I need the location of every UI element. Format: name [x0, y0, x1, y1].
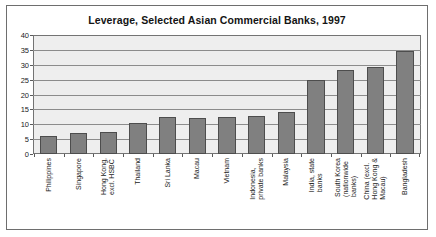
x-axis-tick-label: Singapore	[75, 158, 83, 190]
bar-slot	[64, 35, 94, 154]
bar-slot	[301, 35, 331, 154]
x-axis-label-slot: South Korea (nationwide banks)	[331, 158, 361, 224]
bar-slot	[93, 35, 123, 154]
bar	[40, 136, 57, 154]
x-axis-end-tickmark	[419, 154, 420, 157]
x-axis-label-slot: Indonesia, private banks	[242, 158, 272, 224]
y-axis-tick-label: 20	[21, 90, 29, 99]
x-axis-tick-label: Sri Lanka	[164, 158, 172, 188]
x-axis-label-slot: Thailand	[123, 158, 153, 224]
y-axis-tick-label: 0	[25, 150, 29, 159]
bar	[100, 132, 117, 154]
bar-slot	[361, 35, 391, 154]
bar-slot	[153, 35, 183, 154]
x-axis-tick-label: South Korea (nationwide banks)	[334, 158, 358, 197]
x-axis-tick-label: Bangladesh	[401, 158, 409, 195]
bar	[218, 117, 235, 154]
x-axis-tick-label: India, state banks	[308, 158, 324, 192]
y-axis-tick-label: 30	[21, 60, 29, 69]
bar-slot	[34, 35, 64, 154]
x-axis-label-slot: China (excl. Hong Kong & Macau)	[361, 158, 391, 224]
y-axis-tick-label: 5	[25, 135, 29, 144]
bar	[337, 70, 354, 154]
x-axis-tick-label: Malaysia	[282, 158, 290, 186]
x-axis-tick-label: China (excl. Hong Kong & Macau)	[363, 158, 387, 200]
bar	[278, 112, 295, 154]
bar-slot	[182, 35, 212, 154]
bar	[129, 123, 146, 154]
bar-slot	[272, 35, 302, 154]
bar	[367, 67, 384, 154]
bar-slot	[331, 35, 361, 154]
x-axis-label-slot: Philippines	[34, 158, 64, 224]
chart-title: Leverage, Selected Asian Commercial Bank…	[7, 14, 427, 26]
bar	[307, 80, 324, 154]
x-axis-tick-label: Philippines	[45, 158, 53, 192]
bar-series	[33, 35, 421, 154]
bar	[189, 118, 206, 154]
bar-slot	[212, 35, 242, 154]
x-axis-label-slot: Singapore	[64, 158, 94, 224]
y-axis-tick-label: 35	[21, 45, 29, 54]
x-axis-label-slot: India, state banks	[301, 158, 331, 224]
x-axis-labels: PhilippinesSingaporeHong Kong, excl. HSB…	[33, 158, 421, 224]
x-axis-label-slot: Sri Lanka	[153, 158, 183, 224]
bar-slot	[390, 35, 420, 154]
x-axis-label-slot: Vietnam	[212, 158, 242, 224]
y-axis-tick-label: 25	[21, 75, 29, 84]
bar	[248, 116, 265, 154]
chart-figure: Leverage, Selected Asian Commercial Bank…	[6, 5, 428, 230]
y-axis-tick-label: 40	[21, 31, 29, 40]
bar	[159, 117, 176, 154]
bar	[70, 133, 87, 154]
x-axis-label-slot: Hong Kong, excl. HSBC	[93, 158, 123, 224]
x-axis-tick-label: Indonesia, private banks	[249, 158, 265, 200]
y-axis-tick-label: 10	[21, 120, 29, 129]
bar-slot	[242, 35, 272, 154]
x-axis-tick-label: Vietnam	[223, 158, 231, 184]
x-axis-tick-label: Thailand	[134, 158, 142, 185]
x-axis-label-slot: Malaysia	[272, 158, 302, 224]
x-axis-label-slot: Macau	[182, 158, 212, 224]
bar	[396, 51, 413, 154]
plot-wrapper: 0510152025303540	[33, 35, 421, 154]
x-axis-tick-label: Macau	[193, 158, 201, 179]
x-axis-label-slot: Bangladesh	[390, 158, 420, 224]
x-axis-tick-label: Hong Kong, excl. HSBC	[100, 158, 116, 195]
y-axis-tick-label: 15	[21, 105, 29, 114]
bar-slot	[123, 35, 153, 154]
